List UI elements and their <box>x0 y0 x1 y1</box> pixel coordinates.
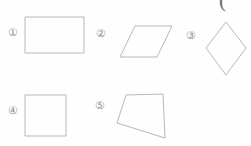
shape-rectangle-1 <box>25 17 84 53</box>
shapes-illustration <box>0 0 251 146</box>
shape-label-3: ③ <box>186 29 196 42</box>
shape-quadrilateral-5 <box>117 94 165 138</box>
clipped-parenthesis-mark: ( <box>219 0 233 15</box>
figure-canvas: ① ② ③ ④ ⑤ ( <box>0 0 251 146</box>
shape-label-1: ① <box>8 26 18 39</box>
shape-label-4: ④ <box>8 104 18 117</box>
shape-parallelogram-2 <box>120 26 172 57</box>
shape-rhombus-3 <box>206 22 246 75</box>
shape-label-2: ② <box>96 27 106 40</box>
partial-glyph: ( <box>219 0 226 11</box>
shape-label-5: ⑤ <box>95 99 105 112</box>
shape-square-4 <box>25 95 66 136</box>
